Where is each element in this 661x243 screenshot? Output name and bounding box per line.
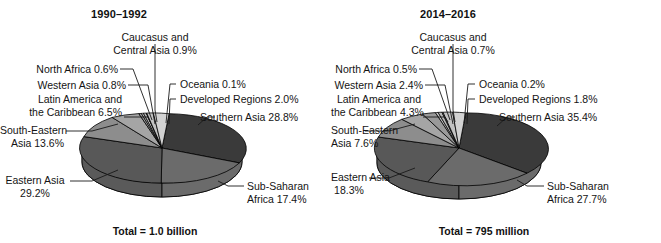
label-line: Asia 7.6% (331, 137, 363, 150)
label-caucasus-central-asia-right: Caucasus and Central Asia 0.7% (398, 31, 508, 56)
label-line: 18.3% (331, 184, 367, 197)
label-line: South-Eastern (331, 124, 363, 137)
label-line: Latin America and (0, 93, 122, 106)
label-line: Latin America and (331, 93, 421, 106)
label-line: South-Eastern (0, 124, 64, 137)
label-line: Eastern Asia (331, 171, 367, 184)
label-line: Sub-Saharan (547, 180, 609, 193)
label-line: the Caribbean 4.3% (331, 106, 421, 119)
label-western-asia-left: Western Asia 0.8% (0, 79, 126, 92)
two-pie-chart-figure: 1990–1992 (0, 0, 661, 243)
label-line: Eastern Asia (2, 174, 68, 187)
label-north-africa-left: North Africa 0.6% (0, 63, 118, 76)
label-line: Central Asia 0.9% (100, 44, 210, 57)
label-southern-asia-left: Southern Asia 28.8% (200, 111, 298, 124)
label-caucasus-central-asia-left: Caucasus and Central Asia 0.9% (100, 31, 210, 56)
label-south-eastern-asia-left: South-Eastern Asia 13.6% (0, 124, 64, 149)
label-latin-america-right: Latin America and the Caribbean 4.3% (331, 93, 421, 118)
chart-total-right: Total = 795 million (389, 225, 579, 237)
label-sub-saharan-africa-left: Sub-Saharan Africa 17.4% (247, 180, 309, 205)
label-line: Sub-Saharan (247, 180, 309, 193)
label-line: Central Asia 0.7% (398, 44, 508, 57)
label-line: 29.2% (2, 187, 68, 200)
label-developed-regions-right: Developed Regions 1.8% (479, 93, 598, 106)
chart-total-left: Total = 1.0 billion (60, 225, 250, 237)
label-line: the Caribbean 6.5% (0, 106, 122, 119)
label-oceania-right: Oceania 0.2% (479, 78, 545, 91)
leader-north-africa-left (120, 69, 152, 120)
label-line: Africa 17.4% (247, 193, 309, 206)
pie-3d-right (374, 112, 548, 199)
label-eastern-asia-right: Eastern Asia 18.3% (331, 171, 367, 196)
label-eastern-asia-left: Eastern Asia 29.2% (2, 174, 68, 199)
pie-panel-2014-2016: 2014–2016 (331, 0, 661, 243)
label-line: Asia 13.6% (0, 137, 64, 150)
label-line: Caucasus and (398, 31, 508, 44)
label-line: Caucasus and (100, 31, 210, 44)
label-latin-america-left: Latin America and the Caribbean 6.5% (0, 93, 122, 118)
label-south-eastern-asia-right: South-Eastern Asia 7.6% (331, 124, 363, 149)
label-developed-regions-left: Developed Regions 2.0% (180, 93, 299, 106)
pie-3d-left (80, 113, 247, 197)
label-southern-asia-right: Southern Asia 35.4% (499, 111, 597, 124)
label-line: Africa 27.7% (547, 193, 609, 206)
label-sub-saharan-africa-right: Sub-Saharan Africa 27.7% (547, 180, 609, 205)
label-western-asia-right: Western Asia 2.4% (331, 79, 423, 92)
pie-panel-1990-1992: 1990–1992 (0, 0, 330, 243)
label-oceania-left: Oceania 0.1% (180, 78, 246, 91)
label-north-africa-right: North Africa 0.5% (331, 63, 417, 76)
